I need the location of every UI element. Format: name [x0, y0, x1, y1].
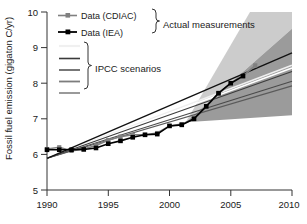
data-point [143, 133, 148, 138]
data-point [118, 139, 123, 144]
y-tick-6: 6 [33, 149, 38, 160]
data-point [155, 132, 160, 137]
data-point [45, 147, 50, 152]
y-tick-10: 10 [27, 7, 38, 18]
x-ticks [47, 190, 292, 196]
x-tick-2010: 2010 [278, 199, 299, 210]
x-tick-2005: 2005 [220, 199, 241, 210]
data-point [241, 74, 246, 79]
data-point [118, 135, 122, 139]
y-axis-title: Fossil fuel emission (gigaton C/yr) [3, 17, 14, 160]
data-point [69, 147, 74, 152]
data-point [228, 81, 233, 86]
y-tick-8: 8 [33, 78, 38, 89]
data-point [253, 63, 257, 67]
data-point [106, 141, 111, 146]
y-tick-labels: 10 9 8 7 6 5 [27, 7, 38, 196]
legend-label-cdiac: Data (CDIAC) [81, 11, 137, 21]
data-point [216, 91, 221, 96]
data-point [130, 135, 135, 140]
legend-bracket-actual [152, 9, 160, 33]
y-tick-9: 9 [33, 42, 38, 53]
legend-bracket-ipcc [84, 42, 92, 89]
x-tick-1995: 1995 [98, 199, 119, 210]
emissions-chart: 10 9 8 7 6 5 1990 1995 2000 2005 2010 Fo… [0, 0, 307, 224]
x-tick-1990: 1990 [36, 199, 57, 210]
data-point [81, 147, 86, 152]
data-point [94, 146, 99, 151]
data-point [57, 147, 62, 152]
y-tick-7: 7 [33, 113, 38, 124]
annotation-actual-measurements: Actual measurements [163, 19, 255, 30]
y-ticks [41, 12, 47, 190]
legend-label-iea: Data (IEA) [81, 28, 123, 38]
y-tick-5: 5 [33, 185, 38, 196]
x-tick-2000: 2000 [159, 199, 180, 210]
data-point [179, 123, 184, 128]
legend-ipcc-swatches[interactable] [59, 46, 80, 93]
annotation-ipcc-scenarios: IPCC scenarios [95, 63, 161, 74]
x-tick-labels: 1990 1995 2000 2005 2010 [36, 199, 299, 210]
legend-entry-cdiac[interactable]: Data (CDIAC) [58, 11, 137, 21]
scenario-line-4 [47, 81, 292, 158]
data-point [167, 124, 172, 129]
data-point [204, 104, 209, 109]
legend-entry-iea[interactable]: Data (IEA) [58, 28, 123, 38]
data-point [192, 117, 197, 122]
chart-container: 10 9 8 7 6 5 1990 1995 2000 2005 2010 Fo… [0, 0, 307, 224]
